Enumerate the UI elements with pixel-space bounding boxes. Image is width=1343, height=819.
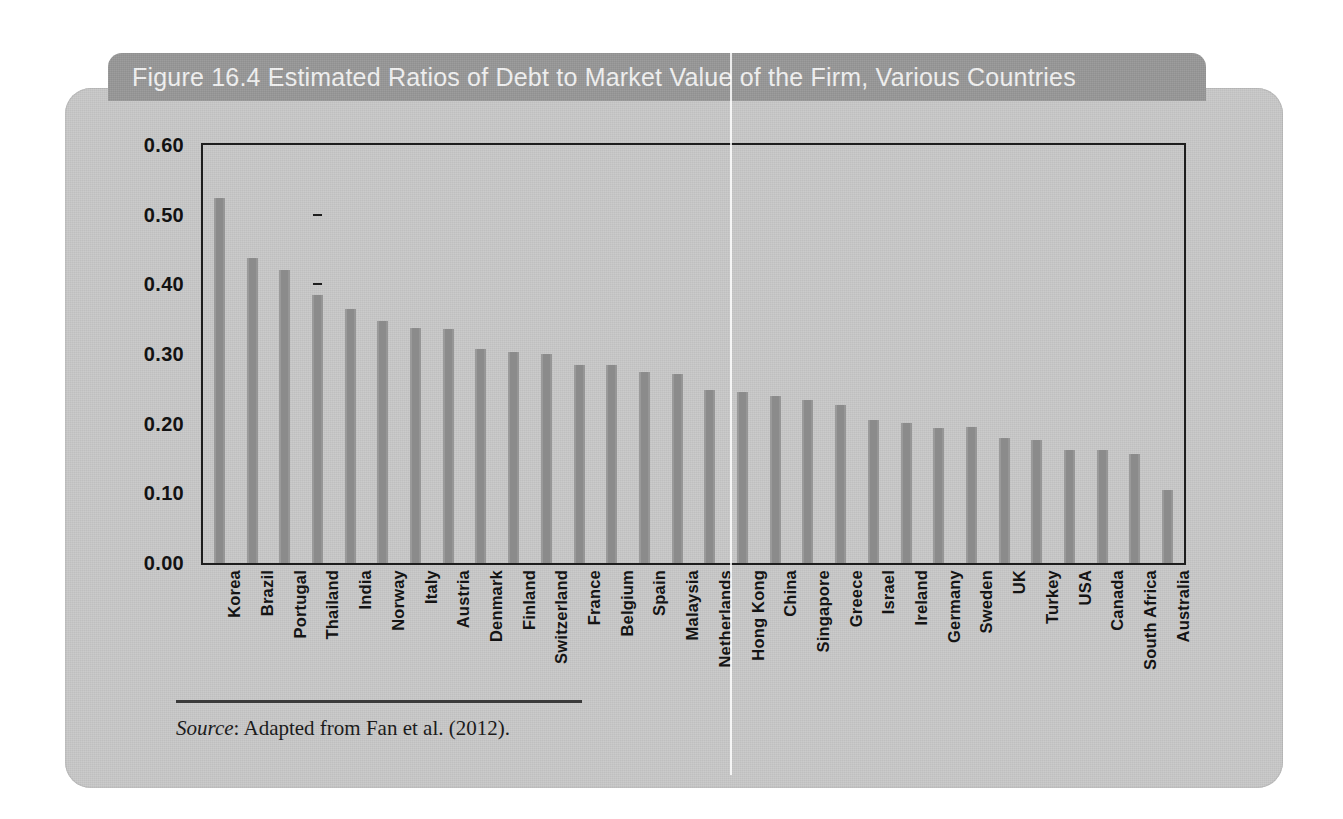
figure-title: Figure 16.4 Estimated Ratios of Debt to … bbox=[132, 53, 1196, 101]
x-tick-label: China bbox=[781, 570, 800, 617]
x-tick-label: South Africa bbox=[1141, 570, 1160, 670]
bar bbox=[279, 270, 290, 563]
x-tick-label: Belgium bbox=[618, 570, 637, 637]
y-tick-label: 0.40 bbox=[144, 273, 184, 296]
x-tick-label: Denmark bbox=[487, 570, 506, 642]
y-tick-label: 0.20 bbox=[144, 412, 184, 435]
bar bbox=[1129, 454, 1140, 563]
source-note: Source: Adapted from Fan et al. (2012). bbox=[176, 716, 510, 741]
x-tick-label: Greece bbox=[847, 570, 866, 627]
x-axis: KoreaBrazilPortugalThailandIndiaNorwayIt… bbox=[203, 570, 1184, 685]
bar bbox=[1097, 450, 1108, 563]
y-tick-label: 0.00 bbox=[144, 552, 184, 575]
bar bbox=[377, 321, 388, 563]
bar bbox=[247, 258, 258, 563]
x-tick-label: USA bbox=[1076, 570, 1095, 605]
bar bbox=[508, 352, 519, 563]
bar bbox=[868, 420, 879, 564]
x-tick-label: Spain bbox=[650, 570, 669, 616]
bar bbox=[901, 423, 912, 563]
x-tick-label: Norway bbox=[389, 570, 408, 631]
bar bbox=[737, 392, 748, 563]
bar bbox=[214, 198, 225, 563]
bar bbox=[770, 396, 781, 563]
bar bbox=[966, 427, 977, 563]
x-tick-label: Ireland bbox=[912, 570, 931, 626]
y-tick-label: 0.60 bbox=[144, 134, 184, 157]
y-tick-label: 0.10 bbox=[144, 482, 184, 505]
x-tick-label: Portugal bbox=[291, 570, 310, 639]
bar bbox=[574, 365, 585, 563]
bar bbox=[933, 428, 944, 563]
x-tick-label: Finland bbox=[520, 570, 539, 630]
bar bbox=[475, 349, 486, 563]
bar bbox=[1162, 490, 1173, 563]
x-tick-label: Singapore bbox=[814, 570, 833, 652]
x-tick-label: Hong Kong bbox=[749, 570, 768, 661]
x-tick-label: Sweden bbox=[977, 570, 996, 634]
y-tick-label: 0.30 bbox=[144, 343, 184, 366]
bar bbox=[345, 309, 356, 563]
source-divider bbox=[176, 700, 582, 703]
x-tick-label: Turkey bbox=[1043, 570, 1062, 624]
y-axis: 0.000.100.200.300.400.500.60 bbox=[120, 143, 194, 565]
x-tick-label: Austria bbox=[454, 570, 473, 628]
bar bbox=[541, 354, 552, 563]
x-tick-label: Brazil bbox=[258, 570, 277, 616]
bar bbox=[672, 374, 683, 563]
x-tick-label: India bbox=[356, 570, 375, 610]
x-tick-label: Malaysia bbox=[683, 570, 702, 640]
x-tick-label: Germany bbox=[945, 570, 964, 643]
x-tick-label: UK bbox=[1010, 570, 1029, 594]
x-tick-label: Australia bbox=[1174, 570, 1193, 642]
x-tick-label: Switzerland bbox=[552, 570, 571, 664]
x-tick-label: Korea bbox=[225, 570, 244, 618]
x-tick-label: Canada bbox=[1108, 570, 1127, 631]
bar bbox=[1031, 440, 1042, 563]
x-tick-label: Israel bbox=[879, 570, 898, 614]
figure-title-bar: Figure 16.4 Estimated Ratios of Debt to … bbox=[108, 53, 1206, 101]
bar bbox=[443, 329, 454, 563]
bar bbox=[312, 295, 323, 563]
y-tick-label: 0.50 bbox=[144, 203, 184, 226]
x-tick-label: Thailand bbox=[323, 570, 342, 639]
x-tick-label: Netherlands bbox=[716, 570, 735, 668]
bar bbox=[704, 390, 715, 563]
bar bbox=[835, 405, 846, 563]
source-text: : Adapted from Fan et al. (2012). bbox=[234, 716, 510, 740]
bar-series bbox=[203, 145, 1184, 563]
x-tick-label: Italy bbox=[422, 570, 441, 604]
bar bbox=[639, 372, 650, 563]
bar bbox=[999, 438, 1010, 563]
source-label: Source bbox=[176, 716, 234, 740]
bar bbox=[1064, 450, 1075, 563]
bar bbox=[410, 328, 421, 563]
x-tick-label: France bbox=[585, 570, 604, 625]
bar bbox=[802, 400, 813, 563]
bar bbox=[606, 365, 617, 563]
